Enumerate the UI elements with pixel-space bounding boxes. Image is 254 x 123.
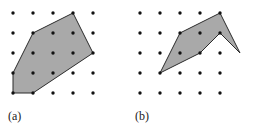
lattice-dot <box>178 71 181 74</box>
lattice-dot <box>91 71 94 74</box>
panel-b-canvas <box>127 0 254 123</box>
lattice-dot <box>198 31 201 34</box>
panel-a-canvas <box>0 0 127 123</box>
lattice-dot <box>11 51 14 54</box>
lattice-dot <box>218 11 221 14</box>
figure-lattice-polygons: (a) (b) <box>0 0 254 123</box>
lattice-dot <box>51 91 54 94</box>
lattice-dot <box>198 11 201 14</box>
panel-a: (a) <box>0 0 127 123</box>
lattice-dot <box>178 11 181 14</box>
panel-b: (b) <box>127 0 254 123</box>
lattice-dot <box>51 31 54 34</box>
lattice-dot <box>11 71 14 74</box>
lattice-dot <box>218 51 221 54</box>
panel-a-caption: (a) <box>8 110 21 122</box>
lattice-dot <box>91 91 94 94</box>
lattice-dot <box>11 11 14 14</box>
lattice-dot <box>198 51 201 54</box>
lattice-dot <box>51 71 54 74</box>
lattice-dot <box>11 91 14 94</box>
lattice-dot <box>11 31 14 34</box>
lattice-dot <box>91 51 94 54</box>
lattice-dot <box>91 11 94 14</box>
lattice-dot <box>31 91 34 94</box>
lattice-dot <box>71 11 74 14</box>
lattice-dot <box>138 51 141 54</box>
lattice-dot <box>198 91 201 94</box>
lattice-dot <box>31 71 34 74</box>
lattice-dot <box>71 91 74 94</box>
lattice-dot <box>158 11 161 14</box>
lattice-dot <box>178 91 181 94</box>
lattice-dot <box>31 31 34 34</box>
lattice-dot <box>71 71 74 74</box>
lattice-dot <box>178 51 181 54</box>
lattice-dot <box>138 91 141 94</box>
lattice-dot <box>218 91 221 94</box>
non-convex-polygon-shape <box>160 13 240 73</box>
lattice-dot <box>198 71 201 74</box>
lattice-dot <box>71 51 74 54</box>
lattice-dot <box>31 51 34 54</box>
lattice-dot <box>178 31 181 34</box>
lattice-dot <box>158 71 161 74</box>
lattice-dot <box>158 91 161 94</box>
lattice-dot <box>31 11 34 14</box>
lattice-dot <box>218 31 221 34</box>
lattice-dot <box>51 51 54 54</box>
lattice-dot <box>71 31 74 34</box>
lattice-dot <box>138 31 141 34</box>
lattice-dot <box>158 31 161 34</box>
lattice-dot <box>91 31 94 34</box>
lattice-dot <box>158 51 161 54</box>
lattice-dot <box>138 71 141 74</box>
lattice-dot <box>218 71 221 74</box>
lattice-dot <box>51 11 54 14</box>
lattice-dot <box>138 11 141 14</box>
panel-b-caption: (b) <box>135 110 149 122</box>
